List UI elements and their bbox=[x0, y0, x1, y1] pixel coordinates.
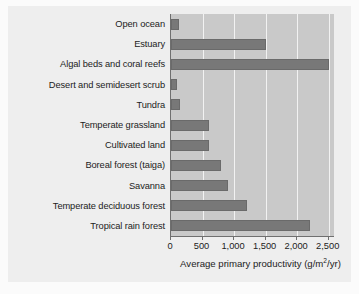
bar-row bbox=[171, 34, 334, 54]
category-axis-labels: Open ocean Estuary Algal beds and coral … bbox=[8, 14, 170, 236]
category-label: Temperate deciduous forest bbox=[8, 196, 170, 216]
tick-mark bbox=[296, 237, 297, 240]
category-label: Temperate grassland bbox=[8, 115, 170, 135]
tick-mark bbox=[233, 237, 234, 240]
bar-row bbox=[171, 75, 334, 95]
tick-label: 1,500 bbox=[253, 241, 276, 251]
bar-row bbox=[171, 176, 334, 196]
bar bbox=[171, 19, 179, 30]
chart-plot-area: Open ocean Estuary Algal beds and coral … bbox=[8, 14, 351, 236]
tick-mark bbox=[202, 237, 203, 240]
bar bbox=[171, 120, 209, 131]
tick-mark bbox=[170, 237, 171, 240]
category-label: Tundra bbox=[8, 95, 170, 115]
bar-row bbox=[171, 135, 334, 155]
tick-label: 2,000 bbox=[285, 241, 308, 251]
tick-label: 2,500 bbox=[316, 241, 339, 251]
bar bbox=[171, 160, 221, 171]
category-label: Cultivated land bbox=[8, 135, 170, 155]
bar bbox=[171, 220, 310, 231]
bar-row bbox=[171, 95, 334, 115]
bar bbox=[171, 79, 177, 90]
bar-row bbox=[171, 155, 334, 175]
x-axis-title: Average primary productivity (g/m2/yr) bbox=[170, 258, 351, 269]
bar-row bbox=[171, 54, 334, 74]
bar bbox=[171, 200, 247, 211]
category-label: Boreal forest (taiga) bbox=[8, 155, 170, 175]
tick-mark bbox=[328, 237, 329, 240]
category-label: Savanna bbox=[8, 176, 170, 196]
bar-row bbox=[171, 216, 334, 236]
bar-row bbox=[171, 115, 334, 135]
category-label: Desert and semidesert scrub bbox=[8, 75, 170, 95]
bar-row bbox=[171, 196, 334, 216]
category-label: Estuary bbox=[8, 34, 170, 54]
tick-label: 500 bbox=[194, 241, 210, 251]
bar-row bbox=[171, 14, 334, 34]
bar bbox=[171, 99, 180, 110]
x-axis-ticks: 05001,0001,5002,0002,500 bbox=[170, 237, 334, 251]
category-label: Algal beds and coral reefs bbox=[8, 54, 170, 74]
category-label: Open ocean bbox=[8, 14, 170, 34]
chart-panel: Open ocean Estuary Algal beds and coral … bbox=[8, 6, 351, 282]
bar bbox=[171, 180, 228, 191]
tick-mark bbox=[265, 237, 266, 240]
tick-label: 1,000 bbox=[221, 241, 244, 251]
bar bbox=[171, 39, 266, 50]
plot-canvas bbox=[170, 14, 334, 236]
tick-label: 0 bbox=[167, 241, 172, 251]
chart-figure: Open ocean Estuary Algal beds and coral … bbox=[0, 0, 359, 294]
bar-series bbox=[171, 14, 334, 236]
category-label: Tropical rain forest bbox=[8, 216, 170, 236]
bar bbox=[171, 140, 209, 151]
bar bbox=[171, 59, 329, 70]
